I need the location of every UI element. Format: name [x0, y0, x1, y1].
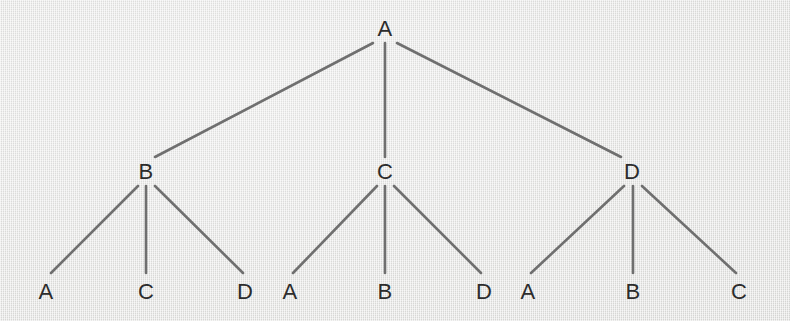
tree-edge: [155, 186, 243, 273]
tree-edge: [531, 186, 624, 273]
tree-node-l-c-d[interactable]: D: [476, 281, 492, 303]
tree-edge: [155, 43, 373, 157]
tree-node-n-b[interactable]: B: [139, 161, 154, 183]
tree-diagram-page: ABCDACDABDABC: [0, 0, 790, 321]
tree-node-l-c-a[interactable]: A: [283, 281, 298, 303]
tree-node-n-d[interactable]: D: [624, 161, 640, 183]
tree-edges-canvas: [0, 0, 790, 321]
tree-edge: [394, 186, 481, 273]
tree-node-l-b-d[interactable]: D: [237, 281, 253, 303]
tree-node-l-d-c[interactable]: C: [731, 281, 747, 303]
tree-node-l-c-b[interactable]: B: [378, 281, 393, 303]
tree-node-root[interactable]: A: [378, 18, 393, 40]
tree-edge: [293, 186, 377, 273]
tree-edge: [397, 43, 621, 157]
tree-edge: [642, 186, 736, 273]
tree-node-l-b-c[interactable]: C: [138, 281, 154, 303]
tree-node-l-b-a[interactable]: A: [39, 281, 54, 303]
tree-node-l-d-b[interactable]: B: [626, 281, 641, 303]
tree-node-l-d-a[interactable]: A: [521, 281, 536, 303]
tree-node-n-c[interactable]: C: [377, 161, 393, 183]
edges-group: [51, 43, 736, 273]
tree-edge: [51, 186, 138, 273]
